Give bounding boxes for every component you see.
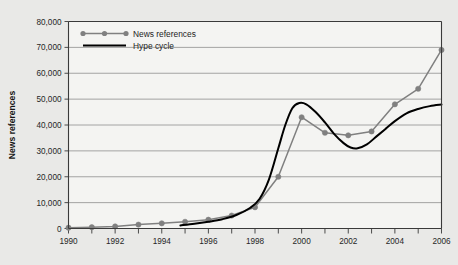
y-tick-label: 0 [57,225,62,234]
data-point-marker [322,130,327,135]
x-axis-tick-labels: 199019921994199619982000200220042006 [59,237,451,246]
x-tick-label: 2000 [293,237,312,246]
y-tick-label: 70,000 [36,43,61,52]
y-tick-label: 20,000 [36,173,61,182]
x-tick-label: 1994 [153,237,172,246]
x-tick-label: 2002 [339,237,358,246]
data-point-marker [276,174,281,179]
y-tick-label: 60,000 [36,69,61,78]
x-tick-label: 1990 [59,237,78,246]
data-point-marker [392,102,397,107]
data-point-marker [159,221,164,226]
legend-marker-news-references [102,31,107,36]
legend-marker-news-references [123,31,128,36]
legend-label-hype-cycle: Hype cycle [133,41,174,51]
data-point-marker [299,115,304,120]
legend-label-news-references: News references [133,29,196,39]
data-point-marker [346,133,351,138]
line-chart: 010,00020,00030,00040,00050,00060,00070,… [0,0,458,265]
data-point-marker [136,222,141,227]
y-axis-title: News references [7,91,17,160]
data-point-marker [416,86,421,91]
x-tick-label: 2004 [386,237,405,246]
data-point-marker [182,219,187,224]
y-tick-label: 50,000 [36,95,61,104]
legend-marker-news-references [80,31,85,36]
y-axis-title-text: News references [7,91,17,160]
y-tick-label: 30,000 [36,147,61,156]
y-tick-label: 40,000 [36,121,61,130]
x-tick-label: 1992 [106,237,125,246]
y-tick-label: 10,000 [36,199,61,208]
y-tick-label: 80,000 [36,18,61,27]
x-tick-label: 1998 [246,237,265,246]
y-axis-tick-labels: 010,00020,00030,00040,00050,00060,00070,… [36,18,61,234]
data-point-marker [369,129,374,134]
chart-container: 010,00020,00030,00040,00050,00060,00070,… [0,0,458,265]
x-tick-label: 2006 [432,237,451,246]
x-tick-label: 1996 [199,237,218,246]
